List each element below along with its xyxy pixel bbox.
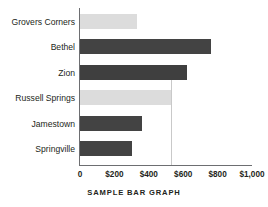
bar (80, 116, 142, 131)
bar-chart: Grovers CornersBethelZionRussell Springs… (0, 0, 268, 207)
x-tick-label: $800 (208, 170, 226, 179)
bar (80, 90, 171, 105)
bars-layer (80, 8, 252, 166)
category-label: Bethel (0, 42, 75, 52)
category-label: Springville (0, 144, 75, 154)
category-label: Zion (0, 68, 75, 78)
x-tick-label: $600 (174, 170, 192, 179)
x-tick-label: $200 (105, 170, 123, 179)
category-label: Jamestown (0, 119, 75, 129)
bar (80, 141, 132, 156)
category-label: Grovers Corners (0, 17, 75, 27)
bar (80, 39, 211, 54)
bar (80, 14, 137, 29)
x-tick-label: 0 (78, 170, 83, 179)
chart-title: SAMPLE BAR GRAPH (0, 188, 268, 197)
x-tick-label: $1,000 (239, 170, 264, 179)
category-label: Russell Springs (0, 93, 75, 103)
x-tick-label: $400 (140, 170, 158, 179)
bar (80, 65, 187, 80)
